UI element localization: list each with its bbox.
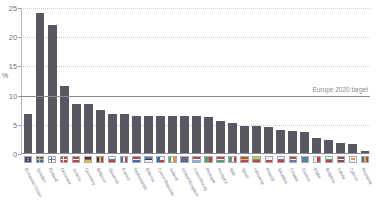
bar <box>204 117 213 153</box>
category-label: Finland <box>48 167 59 182</box>
flag-icon <box>84 156 92 163</box>
category-label: Bulgaria <box>325 167 337 184</box>
flag-icon <box>216 156 224 163</box>
zero-baseline <box>21 153 370 154</box>
flag-icon <box>120 156 128 163</box>
y-tick-mark <box>18 8 21 9</box>
y-tick-label: 0 <box>1 150 17 159</box>
bar-fill <box>288 131 297 153</box>
bar <box>276 130 285 153</box>
bar-fill <box>132 116 141 153</box>
bar-fill <box>348 144 357 153</box>
bar-fill <box>240 126 249 153</box>
flag-icon <box>96 156 104 163</box>
bar-fill <box>264 127 273 153</box>
flag-icon <box>349 156 357 163</box>
category-label: Hungary <box>216 167 228 184</box>
y-tick-mark <box>18 154 21 155</box>
flag-icon <box>277 156 285 163</box>
bar <box>48 25 57 153</box>
flag-icon <box>301 156 309 163</box>
flag-icon <box>337 156 345 163</box>
bar-fill <box>48 25 57 153</box>
y-tick-label: 5 <box>1 120 17 129</box>
bar <box>336 143 345 154</box>
category-label: Austria <box>72 167 83 182</box>
bar <box>264 127 273 153</box>
bar-fill <box>84 104 93 153</box>
y-axis-label: % <box>2 72 8 79</box>
bar <box>300 132 309 153</box>
bar-fill <box>192 116 201 153</box>
bar <box>348 144 357 153</box>
bar-fill <box>36 13 45 153</box>
bar <box>228 123 237 153</box>
category-label: Belgium <box>96 167 108 184</box>
y-tick-label: 20 <box>1 33 17 42</box>
bar <box>168 116 177 153</box>
bar-chart: % 0510152025 Europe 2020 target European… <box>0 0 378 205</box>
category-label: Romania <box>361 167 374 185</box>
y-tick-mark <box>18 66 21 67</box>
flag-icon <box>180 156 188 163</box>
category-label: Malta <box>313 167 323 179</box>
bar <box>24 114 33 153</box>
bar-fill <box>24 114 33 153</box>
y-tick-label: 15 <box>1 62 17 71</box>
category-label: Estonia <box>144 167 155 183</box>
bar <box>240 126 249 153</box>
bar <box>36 13 45 153</box>
category-label: Poland <box>265 167 276 182</box>
category-label: Slovakia <box>277 167 289 184</box>
y-tick-label: 25 <box>1 4 17 13</box>
flag-icon <box>168 156 176 163</box>
category-label: France <box>120 167 131 182</box>
bar-fill <box>120 114 129 153</box>
bar-fill <box>276 130 285 153</box>
bar <box>72 104 81 153</box>
category-label: Latvia <box>337 167 347 180</box>
y-tick-label: 10 <box>1 91 17 100</box>
bar-fill <box>156 116 165 153</box>
bar-series <box>22 8 370 153</box>
y-tick-mark <box>18 37 21 38</box>
category-label: Croatia <box>289 167 300 182</box>
flag-icon <box>192 156 200 163</box>
flag-icon <box>204 156 212 163</box>
bar-fill <box>168 116 177 153</box>
category-label: Portugal <box>204 167 216 184</box>
bar <box>252 126 261 153</box>
flag-icon <box>313 156 321 163</box>
bar-fill <box>300 132 309 153</box>
bar-fill <box>144 116 153 153</box>
flag-icon <box>156 156 164 163</box>
flag-icon <box>289 156 297 163</box>
bar-fill <box>180 116 189 153</box>
bar <box>132 116 141 153</box>
flag-icon <box>108 156 116 163</box>
bar-fill <box>108 114 117 153</box>
category-label: Ireland <box>168 167 179 181</box>
flag-icon <box>325 156 333 163</box>
flag-icon <box>48 156 56 163</box>
category-label: Italy <box>228 167 236 177</box>
flag-icon <box>36 156 44 163</box>
target-line <box>21 96 370 97</box>
bar <box>96 110 105 153</box>
bar <box>84 104 93 153</box>
bar <box>180 116 189 153</box>
flag-icon <box>240 156 248 163</box>
bar <box>324 140 333 153</box>
category-label: Greece <box>301 167 312 182</box>
bar <box>312 138 321 153</box>
flag-icon <box>252 156 260 163</box>
bar <box>144 116 153 153</box>
bar <box>288 131 297 153</box>
bar-fill <box>216 121 225 153</box>
bar-fill <box>72 104 81 153</box>
y-tick-mark <box>18 125 21 126</box>
flag-icon <box>24 156 32 163</box>
bar-fill <box>336 143 345 154</box>
x-axis-category-labels: European UnionSwedenFinlandDenmarkAustri… <box>22 166 371 205</box>
bar-fill <box>228 123 237 153</box>
